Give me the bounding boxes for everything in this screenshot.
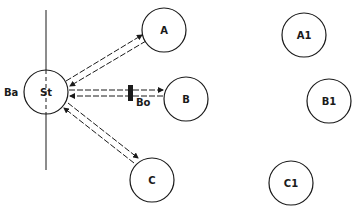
node-a1: A1 bbox=[282, 13, 326, 57]
diagram-canvas: Bo Ba St A B C A1 B1 C1 bbox=[0, 0, 353, 211]
node-b: B bbox=[164, 77, 208, 121]
node-c: C bbox=[130, 158, 174, 202]
node-label: B bbox=[182, 94, 190, 105]
side-label-ba: Ba bbox=[4, 87, 18, 98]
node-label: A bbox=[160, 25, 168, 36]
barrier-bo bbox=[128, 85, 133, 101]
node-label: B1 bbox=[322, 96, 337, 107]
node-label: A1 bbox=[297, 30, 312, 41]
barrier-label: Bo bbox=[136, 97, 151, 108]
node-label: St bbox=[40, 87, 52, 98]
edge-st-a bbox=[66, 35, 146, 86]
node-b1: B1 bbox=[307, 79, 351, 123]
node-st: St bbox=[24, 70, 68, 114]
node-label: C bbox=[148, 175, 155, 186]
edge-st-b bbox=[69, 90, 163, 96]
node-c1: C1 bbox=[269, 161, 313, 205]
node-a: A bbox=[142, 8, 186, 52]
node-label: C1 bbox=[284, 178, 298, 189]
edge-st-c bbox=[64, 103, 138, 163]
